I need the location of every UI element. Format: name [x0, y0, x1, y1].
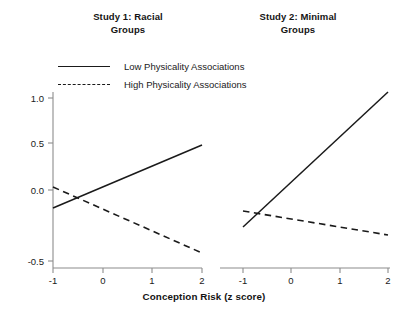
x-tick-label-left-1: 1: [140, 275, 164, 286]
x-tick-label-left-0: 0: [91, 275, 115, 286]
x-axis-title: Conception Risk (z score): [0, 291, 408, 302]
plot-svg: [0, 0, 408, 317]
x-tick-label-left-neg1: -1: [41, 275, 65, 286]
figure-container: Study 1: Racial Groups Study 2: Minimal …: [0, 0, 408, 317]
series-line-high-study-2: [243, 211, 388, 235]
x-tick-label-right-neg1: -1: [231, 275, 255, 286]
series-line-high-study-1: [53, 187, 202, 253]
x-tick-label-right-2: 2: [376, 275, 400, 286]
x-tick-label-right-1: 1: [328, 275, 352, 286]
panel-study-2: [220, 92, 390, 273]
x-tick-label-left-2: 2: [190, 275, 214, 286]
panel-study-1: [48, 92, 202, 273]
series-line-low-study-1: [53, 145, 202, 208]
x-tick-label-right-0: 0: [279, 275, 303, 286]
series-line-low-study-2: [243, 92, 388, 227]
